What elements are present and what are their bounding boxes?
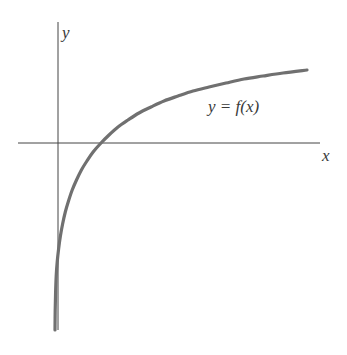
function-curve xyxy=(55,70,307,330)
curve-label: y = f(x) xyxy=(208,98,259,115)
x-axis-label: x xyxy=(322,147,330,164)
y-axis-label: y xyxy=(62,24,70,41)
plot-canvas xyxy=(0,0,347,355)
function-graph-figure: y x y = f(x) xyxy=(0,0,347,355)
